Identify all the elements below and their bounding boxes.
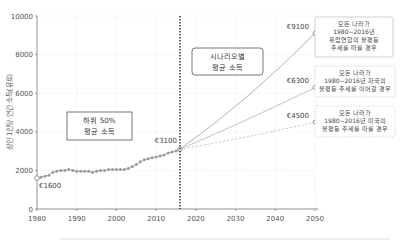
scenario-box-us-line1: 모든 나라가 bbox=[339, 109, 371, 117]
historical-series bbox=[35, 147, 183, 181]
historical-point bbox=[99, 169, 102, 172]
historical-point bbox=[155, 155, 158, 158]
x-tick-label: 2040 bbox=[266, 215, 284, 223]
historical-point bbox=[51, 171, 54, 174]
historical-point bbox=[135, 163, 138, 166]
historical-point bbox=[75, 170, 78, 173]
income-projection-chart: 19801990200020102020203020402050 0200040… bbox=[0, 0, 403, 241]
historical-point bbox=[71, 169, 74, 172]
scenario-box-eu-line1: 모든 나라가 bbox=[338, 20, 370, 28]
historical-point bbox=[111, 168, 114, 171]
historical-point bbox=[175, 150, 178, 153]
x-tick-label: 2020 bbox=[187, 215, 205, 223]
historical-line bbox=[37, 149, 180, 178]
scenario-box-eu-line3: 유럽연합의 불평등 bbox=[329, 36, 379, 44]
historical-endpoint bbox=[35, 176, 40, 181]
historical-point bbox=[163, 153, 166, 156]
historical-legend-line2: 평균 소득 bbox=[84, 127, 114, 136]
x-tick-label: 2050 bbox=[306, 215, 324, 223]
scenario-box-eu-line2: 1980~2016년 bbox=[333, 28, 375, 35]
y-tick-label: 8000 bbox=[15, 51, 33, 59]
historical-point bbox=[131, 165, 134, 168]
historical-point bbox=[55, 170, 58, 173]
historical-point bbox=[171, 151, 174, 154]
x-tick-label: 2010 bbox=[147, 215, 165, 223]
scenario-end-label: €6300 bbox=[287, 77, 309, 85]
x-tick-label: 2030 bbox=[227, 215, 245, 223]
historical-point bbox=[127, 167, 130, 170]
historical-point bbox=[39, 176, 42, 179]
value-annotation: €3100 bbox=[155, 137, 177, 145]
historical-point bbox=[95, 170, 98, 173]
scenario-box-own: 모든 나라가 1980~2016년 자국의 불평등 추세를 이어갈 경우 bbox=[315, 66, 395, 97]
historical-point bbox=[43, 175, 46, 178]
scenario-box-us-line2: 1980~2016년 미국의 bbox=[324, 117, 385, 125]
scenario-box-own-line1: 모든 나라가 bbox=[339, 69, 371, 77]
value-annotation: €1600 bbox=[39, 182, 61, 190]
scenario-legend-line1: 시나리오별 bbox=[210, 52, 245, 61]
scenario-box-us: 모든 나라가 1980~2016년 미국의 불평등 추세를 따를 경우 bbox=[315, 106, 395, 137]
caption-strip bbox=[60, 238, 390, 240]
historical-point bbox=[151, 156, 154, 159]
scenario-line bbox=[180, 122, 315, 149]
scenario-end-label: €4500 bbox=[287, 112, 309, 120]
historical-point bbox=[79, 170, 82, 173]
historical-point bbox=[103, 169, 106, 172]
scenario-end-label: €9100 bbox=[287, 23, 309, 31]
scenario-lines: €9100€6300€4500 bbox=[180, 23, 317, 149]
y-tick-label: 10000 bbox=[11, 13, 33, 21]
historical-point bbox=[107, 168, 110, 171]
x-tick-labels: 19801990200020102020203020402050 bbox=[28, 215, 324, 223]
historical-point bbox=[91, 171, 94, 174]
y-tick-label: 6000 bbox=[15, 90, 33, 98]
y-tick-labels: 0200040006000800010000 bbox=[11, 13, 33, 214]
scenario-box-us-line3: 불평등 추세를 따를 경우 bbox=[322, 125, 388, 133]
historical-point bbox=[167, 152, 170, 155]
historical-point bbox=[119, 168, 122, 171]
historical-point bbox=[143, 158, 146, 161]
x-tick-label: 1980 bbox=[28, 215, 46, 223]
historical-point bbox=[123, 168, 126, 171]
y-tick-label: 4000 bbox=[15, 128, 33, 136]
scenario-box-own-line2: 1980~2016년 자국의 bbox=[324, 77, 385, 85]
scenario-legend-line2: 평균 소득 bbox=[212, 63, 242, 72]
historical-point bbox=[63, 169, 66, 172]
x-tick-label: 1990 bbox=[68, 215, 86, 223]
scenario-box-eu-line4: 추세를 따를 경우 bbox=[331, 44, 377, 52]
y-tick-label: 2000 bbox=[15, 167, 33, 175]
historical-point bbox=[139, 160, 142, 163]
historical-point bbox=[115, 168, 118, 171]
scenario-box-eu: 모든 나라가 1980~2016년 유럽연합의 불평등 추세를 따를 경우 bbox=[315, 17, 393, 57]
x-tick-label: 2000 bbox=[108, 215, 126, 223]
historical-point bbox=[87, 170, 90, 173]
historical-point bbox=[159, 154, 162, 157]
historical-point bbox=[147, 157, 150, 160]
historical-point bbox=[83, 170, 86, 173]
historical-point bbox=[67, 168, 70, 171]
historical-legend-box: 하위 50% 평균 소득 bbox=[67, 112, 132, 140]
y-tick-label: 0 bbox=[29, 206, 33, 214]
historical-point bbox=[59, 169, 62, 172]
y-axis-label: 성인 1인당 연간 소득(유로) bbox=[5, 73, 14, 150]
scenario-box-own-line3: 불평등 추세를 이어갈 경우 bbox=[319, 85, 391, 93]
historical-legend-line1: 하위 50% bbox=[83, 116, 115, 125]
historical-point bbox=[47, 174, 50, 177]
scenario-legend-box: 시나리오별 평균 소득 bbox=[192, 48, 263, 75]
